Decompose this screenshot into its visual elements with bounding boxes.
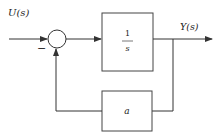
input-label: U(s) — [8, 7, 29, 18]
minus-sign: − — [37, 42, 46, 55]
feedback-block-label: a — [124, 106, 129, 116]
forward-block-numerator: 1 — [125, 29, 130, 38]
output-label: Y(s) — [180, 21, 199, 32]
block-diagram: U(s) − 1 s Y(s) a — [0, 0, 214, 140]
feedback-path-left — [56, 49, 102, 111]
summing-junction — [48, 30, 66, 48]
feedback-path-right — [152, 39, 173, 111]
forward-block-denominator: s — [125, 44, 129, 53]
forward-block — [102, 13, 153, 71]
